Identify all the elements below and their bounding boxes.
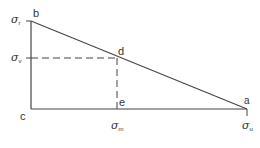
point-label-a: a [244, 96, 250, 106]
point-label-d: d [118, 46, 124, 57]
point-label-c: c [20, 111, 26, 122]
point-label-b: b [33, 8, 39, 19]
label-sigma-m: σm [111, 120, 124, 132]
label-sigma-v: σv [11, 52, 22, 64]
diagram-canvas [0, 0, 260, 148]
point-label-e: e [119, 97, 125, 108]
line-ba [31, 21, 247, 109]
label-sigma-u: σu [242, 120, 253, 132]
label-sigma-r: σr [11, 14, 21, 26]
